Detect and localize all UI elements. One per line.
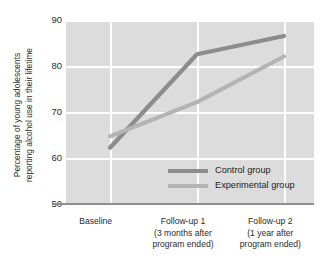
y-axis-title-line2: reporting alcohol use in their lifetime [23,48,33,182]
y-tick-80: 80 [36,61,62,71]
x-axis-tick-labels: Baseline Follow-up 1 (3 months after pro… [52,209,314,275]
y-axis-title-line1: Percentage of young adolescents [12,53,22,177]
y-axis-tick-labels: 90 80 70 60 50 [34,0,62,230]
legend-item-experimental-group: Experimental group [168,180,295,191]
x-label-followup2-line3: program ended) [227,239,314,251]
x-label-followup2-line2: (1 year after [227,228,314,240]
y-tick-60: 60 [36,153,62,163]
series-line-control-group [110,36,284,148]
x-label-followup1-line1: Follow-up 1 [139,216,226,228]
x-label-followup1-line3: program ended) [139,239,226,251]
series-line-experimental-group [110,57,284,137]
legend-swatch-control-group [168,169,208,173]
chart-figure: Percentage of young adolescents reportin… [0,0,322,278]
x-label-followup1-line2: (3 months after [139,228,226,240]
legend-label-control-group: Control group [215,165,271,176]
x-label-baseline-line1: Baseline [52,216,139,228]
x-label-baseline: Baseline [52,209,139,275]
legend-swatch-experimental-group [168,184,208,188]
y-tick-70: 70 [36,107,62,117]
chart-legend: Control group Experimental group [168,165,295,191]
x-axis-line [52,203,314,205]
legend-label-experimental-group: Experimental group [215,180,295,191]
x-label-followup2-line1: Follow-up 2 [227,216,314,228]
y-tick-90: 90 [36,15,62,25]
x-label-followup1: Follow-up 1 (3 months after program ende… [139,209,226,275]
legend-item-control-group: Control group [168,165,295,176]
x-label-followup2: Follow-up 2 (1 year after program ended) [227,209,314,275]
